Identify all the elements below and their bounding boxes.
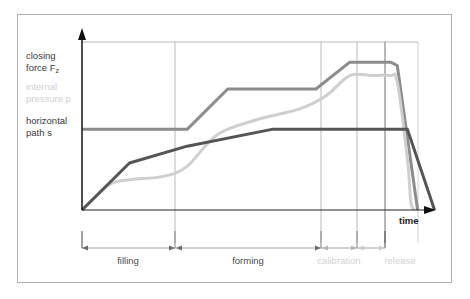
legend-horizontal-path-line1: horizontal xyxy=(26,115,67,126)
legend-closing-force-line2-text: force F xyxy=(26,62,56,73)
process-diagram-chart: filling forming calibration release clos… xyxy=(0,0,470,299)
legend-group: closing force Fz internal pressure p hor… xyxy=(26,50,71,138)
phase-label-filling: filling xyxy=(117,255,139,266)
phase-arrow-2l xyxy=(315,246,321,251)
phase-labels-group: filling forming calibration release xyxy=(117,255,415,266)
gridlines-group xyxy=(82,42,418,243)
phase-ruler-group xyxy=(82,231,385,250)
y-axis-arrow-icon xyxy=(78,28,86,40)
phase-arrow-0r xyxy=(82,246,88,251)
phase-arrow-1l xyxy=(169,246,175,251)
phase-arrow-3l xyxy=(351,246,357,251)
phase-arrow-3r xyxy=(358,246,364,251)
legend-internal-pressure-line2: pressure p xyxy=(26,93,71,104)
legend-horizontal-path-line2: path s xyxy=(26,127,52,138)
series-internal-pressure xyxy=(82,74,414,210)
phase-label-forming: forming xyxy=(232,255,264,266)
figure-container: filling forming calibration release clos… xyxy=(0,0,470,299)
x-axis-label: time xyxy=(399,215,419,226)
legend-closing-force-line1: closing xyxy=(26,50,56,61)
phase-label-release: release xyxy=(384,255,415,266)
phase-arrow-1r xyxy=(176,246,182,251)
phase-arrow-4l xyxy=(379,246,385,251)
legend-closing-force-subscript: z xyxy=(56,67,60,74)
series-closing-force xyxy=(82,62,418,210)
legend-closing-force-line2: force Fz xyxy=(26,62,60,75)
legend-internal-pressure-line1: internal xyxy=(26,81,57,92)
series-horizontal-path xyxy=(82,129,435,210)
phase-label-calibration: calibration xyxy=(317,255,360,266)
data-series-layer xyxy=(82,62,435,210)
phase-arrow-2r xyxy=(322,246,328,251)
